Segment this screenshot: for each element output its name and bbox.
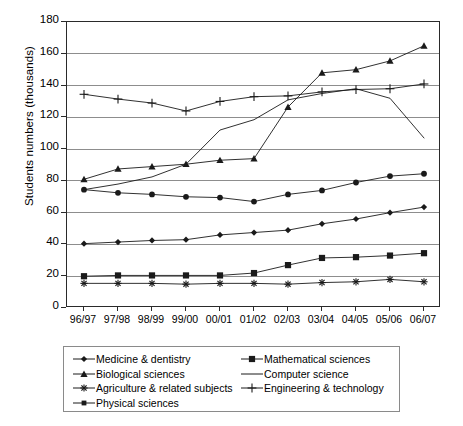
chart-legend: Medicine & dentistryBiological sciencesA… (63, 346, 400, 412)
legend-label: Agriculture & related subjects (96, 382, 233, 394)
series-biological-sciences (80, 42, 427, 182)
data-point-square (149, 272, 155, 278)
legend-marker-none-icon (240, 368, 264, 380)
data-point-plus (148, 99, 157, 108)
data-point-diamond (353, 216, 359, 222)
legend-marker-square-icon (240, 353, 264, 365)
legend-marker-plus-icon (240, 382, 264, 394)
data-point-asterisk (148, 280, 155, 287)
data-point-plus (352, 85, 361, 94)
data-point-square (353, 254, 359, 260)
data-point-plus (250, 92, 259, 101)
data-point-diamond (217, 232, 223, 238)
data-point-asterisk (216, 280, 223, 287)
data-point-asterisk (182, 281, 189, 288)
data-point-plus (114, 95, 123, 104)
y-tick-label: 140 (19, 77, 59, 89)
series-lines (67, 22, 441, 308)
data-point-circle (387, 173, 393, 179)
data-point-circle (353, 180, 359, 186)
y-tick-label: 0 (19, 299, 59, 311)
legend-label: Engineering & technology (264, 382, 384, 394)
data-point-plus (386, 84, 395, 93)
data-point-square (421, 250, 427, 256)
data-point-asterisk (80, 385, 87, 392)
data-point-diamond (115, 239, 121, 245)
data-point-asterisk (420, 278, 427, 285)
y-tick-label: 100 (19, 140, 59, 152)
data-point-diamond (183, 237, 189, 243)
legend-item[interactable]: Biological sciences (72, 367, 233, 382)
data-point-asterisk (352, 278, 359, 285)
data-point-asterisk (284, 281, 291, 288)
data-point-circle (319, 188, 325, 194)
data-point-square (115, 272, 121, 278)
legend-item[interactable]: Computer science (240, 367, 384, 382)
data-point-square (319, 255, 325, 261)
data-point-diamond (81, 356, 87, 362)
data-point-diamond (81, 241, 87, 247)
series-agriculture-related-subjects (80, 276, 427, 288)
legend-marker-square-small-icon (72, 397, 96, 409)
data-point-diamond (149, 237, 155, 243)
legend-item[interactable]: Engineering & technology (240, 381, 384, 396)
data-point-square (387, 252, 393, 258)
data-point-circle (149, 191, 155, 197)
legend-marker-triangle-icon (72, 368, 96, 380)
data-point-triangle (420, 42, 427, 48)
data-point-circle (251, 199, 257, 205)
chart-screenshot: Students numbers (thousands) 02040608010… (0, 0, 463, 426)
data-point-asterisk (318, 279, 325, 286)
data-point-circle (217, 195, 223, 201)
legend-label: Computer science (264, 368, 349, 380)
y-tick-label: 180 (19, 13, 59, 25)
data-point-diamond (319, 221, 325, 227)
data-point-plus (182, 107, 191, 116)
line-chart: Students numbers (thousands) 02040608010… (0, 0, 463, 340)
legend-label: Biological sciences (96, 368, 185, 380)
legend-item[interactable]: Physical sciences (72, 396, 233, 411)
data-point-diamond (251, 229, 257, 235)
y-tick-label: 20 (19, 267, 59, 279)
legend-item[interactable]: Agriculture & related subjects (72, 381, 233, 396)
data-point-asterisk (114, 280, 121, 287)
data-point-circle (183, 194, 189, 200)
legend-column-right: Mathematical sciencesComputer scienceEng… (240, 352, 384, 396)
y-tick-mark (61, 307, 66, 308)
plot-area (66, 21, 440, 307)
series-engineering-technology (80, 80, 429, 116)
x-tick-label: 06/07 (398, 313, 448, 325)
data-point-plus (420, 80, 429, 89)
data-point-triangle (386, 57, 393, 63)
data-point-square (217, 272, 223, 278)
y-tick-label: 120 (19, 108, 59, 120)
data-point-square (183, 272, 189, 278)
series-computer-science (84, 89, 424, 190)
data-point-square (81, 273, 87, 279)
data-point-diamond (387, 210, 393, 216)
legend-column-left: Medicine & dentistryBiological sciencesA… (72, 352, 233, 410)
y-tick-label: 80 (19, 172, 59, 184)
series-medicine-dentistry (81, 204, 427, 247)
data-point-circle (285, 191, 291, 197)
y-tick-label: 60 (19, 204, 59, 216)
legend-item[interactable]: Medicine & dentistry (72, 352, 233, 367)
data-point-diamond (285, 227, 291, 233)
data-point-square (285, 262, 291, 268)
data-point-square (251, 270, 257, 276)
data-point-diamond (421, 204, 427, 210)
series-physical-sciences (81, 171, 427, 205)
series-mathematical-sciences (81, 250, 427, 279)
data-point-asterisk (80, 280, 87, 287)
legend-marker-diamond-icon (72, 353, 96, 365)
data-point-plus (80, 90, 89, 99)
legend-item[interactable]: Mathematical sciences (240, 352, 384, 367)
y-tick-label: 40 (19, 235, 59, 247)
data-point-asterisk (250, 280, 257, 287)
legend-label: Physical sciences (96, 397, 179, 409)
data-point-circle (115, 190, 121, 196)
legend-marker-asterisk-icon (72, 382, 96, 394)
data-point-plus (318, 88, 327, 97)
data-point-square-small (82, 400, 87, 405)
data-point-plus (248, 384, 257, 393)
